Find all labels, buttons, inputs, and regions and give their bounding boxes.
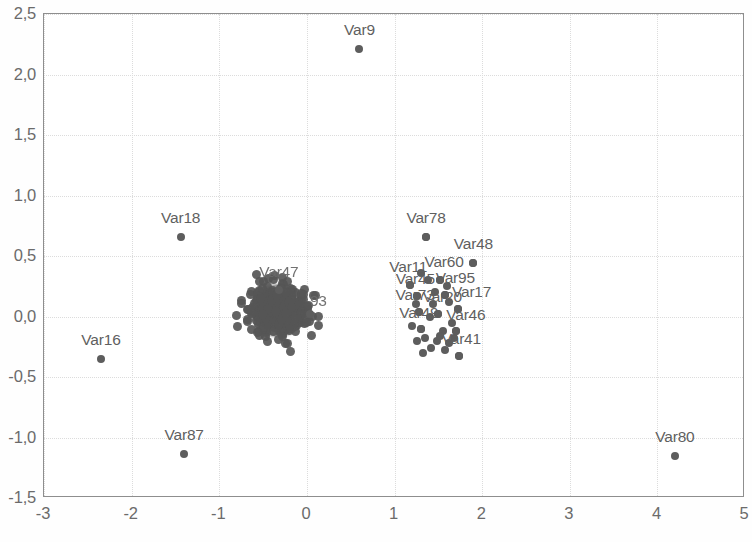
y-axis-tick (43, 256, 44, 257)
x-axis-tick-label: -3 (23, 504, 63, 523)
point-label: Var41 (442, 330, 481, 348)
data-point (307, 331, 316, 340)
point-label: Var87 (165, 426, 204, 444)
y-axis-tick-label: 1,0 (0, 185, 36, 204)
data-point (275, 286, 283, 294)
data-point (419, 349, 427, 357)
point-label: Var16 (81, 331, 120, 349)
gridline-vertical (219, 14, 220, 496)
gridline-horizontal (44, 377, 743, 378)
y-axis-tick-label: -1,0 (0, 427, 36, 446)
x-axis-tick-label: -1 (198, 504, 238, 523)
x-axis-tick (395, 496, 396, 497)
point-label: Var18 (161, 209, 200, 227)
y-axis-tick (43, 14, 44, 15)
data-point (427, 344, 435, 352)
point-label: Var47 (259, 263, 298, 281)
data-point (469, 259, 477, 267)
x-axis-tick (570, 496, 571, 497)
gridline-vertical (44, 14, 45, 496)
point-label: 93 (310, 292, 327, 310)
gridline-horizontal (44, 317, 743, 318)
data-point (413, 337, 421, 345)
y-axis-tick-label: 0,0 (0, 306, 36, 325)
data-point (177, 233, 185, 241)
data-point (421, 334, 429, 342)
x-axis-tick (307, 496, 308, 497)
x-axis-tick (44, 496, 45, 497)
x-axis-tick (657, 496, 658, 497)
x-axis-tick-label: -2 (111, 504, 151, 523)
data-point (97, 355, 105, 363)
y-axis-tick (43, 196, 44, 197)
y-axis-tick-label: 2,5 (0, 4, 36, 23)
x-axis-tick-label: 1 (374, 504, 414, 523)
gridline-horizontal (44, 438, 743, 439)
y-axis-tick-label: -0,5 (0, 367, 36, 386)
gridline-vertical (570, 14, 571, 496)
data-point (180, 450, 188, 458)
gridline-vertical (657, 14, 658, 496)
x-axis-tick-label: 5 (724, 504, 752, 523)
point-label: Var46 (446, 306, 485, 324)
gridline-horizontal (44, 135, 743, 136)
y-axis-tick (43, 377, 44, 378)
gridline-vertical (307, 14, 308, 496)
data-point (417, 325, 425, 333)
x-axis-tick-label: 0 (286, 504, 326, 523)
gridline-vertical (482, 14, 483, 496)
y-axis-tick (43, 317, 44, 318)
y-axis-tick (43, 135, 44, 136)
data-point (314, 312, 323, 321)
data-point (299, 290, 308, 299)
gridline-vertical (132, 14, 133, 496)
x-axis-tick-label: 2 (461, 504, 501, 523)
x-axis-tick-label: 3 (549, 504, 589, 523)
data-point (258, 284, 267, 293)
point-label: Var78 (406, 209, 445, 227)
x-axis-tick (132, 496, 133, 497)
gridline-horizontal (44, 14, 743, 15)
y-axis-tick-label: 2,0 (0, 64, 36, 83)
x-axis-tick (219, 496, 220, 497)
point-label: Var80 (655, 428, 694, 446)
gridline-vertical (395, 14, 396, 496)
data-point (314, 321, 323, 330)
data-point (233, 322, 242, 331)
y-axis-tick-label: 0,5 (0, 246, 36, 265)
point-label: Var9 (344, 21, 375, 39)
scatter-plot-figure: Var9Var18Var16Var87Var80Var78Var48Var60V… (0, 0, 752, 542)
y-axis-tick-label: 1,5 (0, 125, 36, 144)
y-axis-tick (43, 438, 44, 439)
gridline-horizontal (44, 196, 743, 197)
data-point (455, 352, 463, 360)
point-label: Var48 (454, 235, 493, 253)
x-axis-tick (482, 496, 483, 497)
plot-area: Var9Var18Var16Var87Var80Var78Var48Var60V… (43, 13, 744, 497)
data-point (671, 452, 679, 460)
data-point (232, 311, 241, 320)
data-point (408, 322, 416, 330)
data-point (355, 45, 363, 53)
x-axis-tick-label: 4 (636, 504, 676, 523)
data-point (274, 335, 283, 344)
data-point (258, 310, 267, 319)
point-label: Var49 (399, 304, 438, 322)
y-axis-tick (43, 75, 44, 76)
data-point (271, 307, 280, 316)
gridline-horizontal (44, 75, 743, 76)
gridline-horizontal (44, 256, 743, 257)
data-point (286, 347, 295, 356)
data-point (422, 233, 430, 241)
data-point (302, 318, 311, 327)
